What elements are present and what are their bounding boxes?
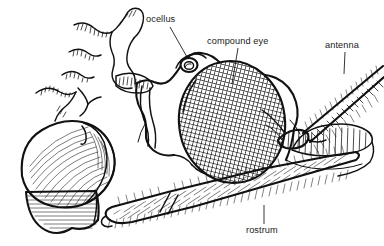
anatomy-drawing: ocellus compound eye antenna rostrum bbox=[0, 0, 384, 246]
label-text-antenna: antenna bbox=[325, 40, 360, 50]
anatomy-figure: ocellus compound eye antenna rostrum bbox=[0, 0, 384, 246]
label-text-compound-eye: compound eye bbox=[207, 36, 268, 46]
label-text-rostrum: rostrum bbox=[246, 225, 278, 235]
label-text-ocellus: ocellus bbox=[146, 14, 176, 24]
